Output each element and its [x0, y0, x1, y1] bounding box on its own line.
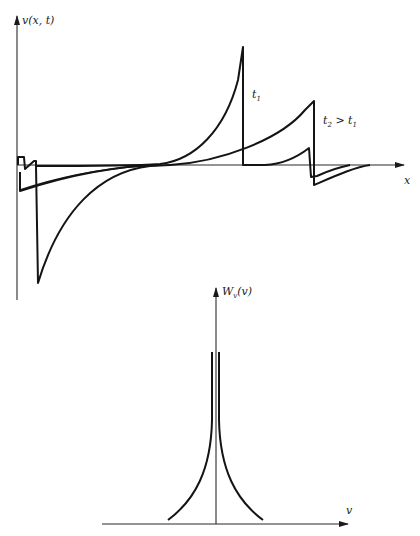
curve-t1 [18, 47, 245, 169]
top-diagram: v(x, t) x t1 t2 > t1 [17, 14, 411, 300]
curve-t2 [36, 101, 370, 283]
curve-t2-inner [245, 148, 350, 177]
y-axis-label: v(x, t) [22, 14, 54, 27]
bottom-diagram: Wv(v) v [102, 285, 353, 524]
label-t2-gt-t1: t2 > t1 [323, 114, 357, 129]
distribution-right-branch [219, 352, 263, 520]
w-axis-label: Wv(v) [222, 285, 252, 300]
figure-canvas: v(x, t) x t1 t2 > t1 Wv(v) v [0, 0, 420, 536]
distribution-left-branch [168, 352, 212, 520]
label-t1: t1 [252, 88, 261, 103]
v-axis-label: v [346, 504, 353, 517]
x-axis-label: x [404, 174, 411, 187]
curve-t1-lower-branch [20, 165, 160, 191]
